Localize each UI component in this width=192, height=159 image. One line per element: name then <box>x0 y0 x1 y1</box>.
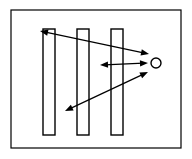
bar-1 <box>43 29 55 135</box>
bar-3 <box>111 29 123 135</box>
source-circle <box>151 58 161 68</box>
bars-group <box>43 29 123 135</box>
bar-2 <box>77 29 89 135</box>
diagram-canvas <box>0 0 192 159</box>
diagram-frame <box>11 10 181 148</box>
diagram-figure <box>0 0 192 159</box>
